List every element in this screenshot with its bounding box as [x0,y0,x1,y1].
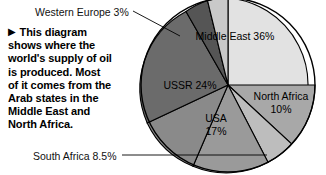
pie-chart: Middle East 36% North Africa 10% USA 17%… [0,0,326,175]
label-ussr: USSR 24% [163,79,216,91]
label-usa-line2: 17% [205,125,226,137]
label-usa-line1: USA [205,112,227,124]
figure-root: ▶This diagram shows where the world's su… [0,0,326,175]
label-middle-east: Middle East 36% [196,30,275,42]
label-north-africa-line2: 10% [270,103,291,115]
label-north-africa-line1: North Africa [254,90,309,102]
